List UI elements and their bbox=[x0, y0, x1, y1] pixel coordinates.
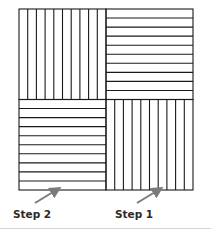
arrow-step-2-icon bbox=[35, 189, 58, 203]
step-1-label: Step 1 bbox=[115, 208, 153, 220]
parquet-pattern-diagram bbox=[0, 0, 211, 237]
arrow-step-1-icon bbox=[137, 189, 160, 203]
caption-divider bbox=[0, 228, 211, 229]
step-2-label: Step 2 bbox=[13, 208, 51, 220]
